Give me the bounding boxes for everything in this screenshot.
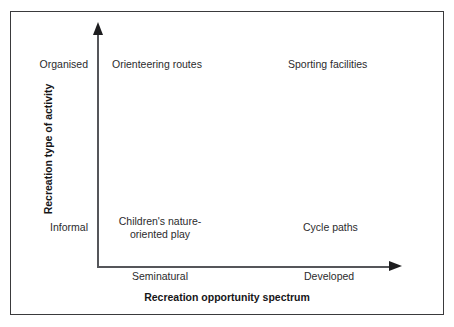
y-axis-tick-label-informal: Informal [50, 221, 88, 234]
y-axis-title: Recreation type of activity [42, 59, 54, 239]
quadrant-label-sporting-facilities: Sporting facilities [288, 58, 367, 71]
x-axis-line [97, 266, 394, 268]
y-axis-line [97, 34, 99, 268]
quadrant-label-childrens-nature-oriented-play: Children's nature-oriented play [108, 215, 212, 240]
figure-border-frame [10, 11, 444, 315]
x-axis-title: Recreation opportunity spectrum [0, 291, 454, 303]
x-axis-tick-label-seminatural: Seminatural [132, 270, 188, 283]
x-axis-tick-label-developed: Developed [304, 270, 354, 283]
y-axis-arrowhead-icon [93, 22, 103, 35]
quadrant-label-orienteering-routes: Orienteering routes [112, 58, 202, 71]
x-axis-arrowhead-icon [389, 261, 402, 271]
figure-root: Organised Informal Seminatural Developed… [0, 0, 454, 327]
quadrant-label-cycle-paths: Cycle paths [303, 221, 358, 234]
